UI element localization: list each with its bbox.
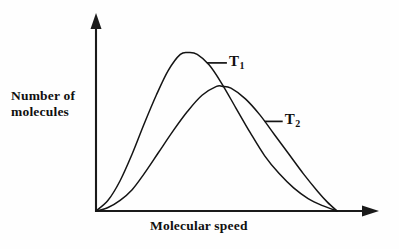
curve-label-t1-subscript: 1 xyxy=(239,60,244,71)
curve-label-t2-subscript: 2 xyxy=(295,118,300,129)
curve-label-t1: T1 xyxy=(229,53,244,70)
curve-t1 xyxy=(96,52,337,211)
curve-t2 xyxy=(96,86,337,211)
distribution-chart xyxy=(0,0,399,249)
x-axis-label: Molecular speed xyxy=(150,218,248,234)
curve-label-t2: T2 xyxy=(285,111,300,128)
x-axis-arrowhead-icon xyxy=(362,206,379,217)
y-axis-label: Number of molecules xyxy=(11,88,97,120)
figure-canvas: Number of molecules Molecular speed T1 T… xyxy=(0,0,399,249)
curve-label-t1-text: T xyxy=(229,53,239,69)
y-axis-arrowhead-icon xyxy=(91,13,102,29)
curve-label-t2-text: T xyxy=(285,111,295,127)
